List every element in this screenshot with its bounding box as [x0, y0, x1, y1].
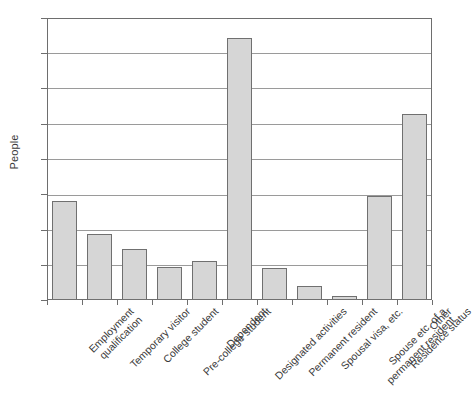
x-tick-label-line: Dependent [224, 305, 269, 350]
x-tick-label: Dependent [224, 305, 269, 350]
